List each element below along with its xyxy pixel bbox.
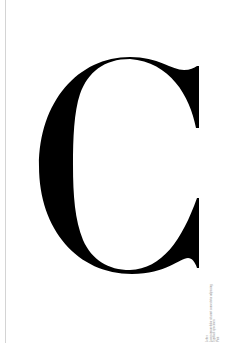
poster-page: Letter Lorem ipsum dolor sit amet consec…: [0, 0, 225, 343]
page-edge-divider: [5, 0, 6, 343]
specimen-caption: Letter Lorem ipsum dolor sit amet consec…: [206, 284, 220, 342]
caption-line: Print: [217, 284, 221, 342]
large-letter-c: [30, 50, 205, 280]
letter-c-glyph-icon: [30, 50, 205, 280]
